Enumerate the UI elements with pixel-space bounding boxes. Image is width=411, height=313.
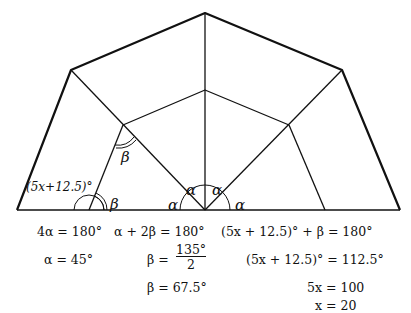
- svg-text:α: α: [212, 181, 222, 199]
- svg-text:α: α: [186, 181, 196, 199]
- eq-5x-value: (5x + 12.5)° = 112.5°: [246, 252, 384, 267]
- eq-beta-value: β = 67.5°: [147, 280, 207, 295]
- svg-text:α: α: [168, 196, 178, 214]
- angle-expression-label: (5x+12.5)°: [26, 180, 93, 194]
- inner-pentagon: [123, 90, 289, 125]
- eq-alpha: α = 45°: [44, 252, 93, 267]
- eq-alpha-2beta: α + 2β = 180°: [114, 224, 205, 239]
- eq-5x-100: 5x = 100: [307, 280, 364, 295]
- frac-numerator: 135°: [176, 243, 206, 257]
- eq-4alpha: 4α = 180°: [37, 224, 102, 239]
- beta-label-upper: β: [120, 148, 130, 166]
- eq-beta-prefix: β =: [147, 252, 169, 267]
- eq-x-20: x = 20: [315, 298, 356, 313]
- geometry-diagram: β β (5x+12.5)° α α α α: [0, 0, 411, 215]
- eq-5x-beta: (5x + 12.5)° + β = 180°: [221, 224, 372, 239]
- frac-denominator: 2: [176, 258, 206, 272]
- beta-label-lower: β: [109, 195, 119, 213]
- svg-text:α: α: [235, 196, 245, 214]
